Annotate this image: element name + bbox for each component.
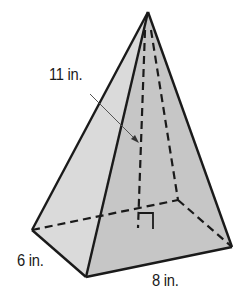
- width-label: 6 in.: [17, 253, 43, 269]
- height-label: 11 in.: [49, 67, 82, 83]
- length-label: 8 in.: [152, 273, 178, 289]
